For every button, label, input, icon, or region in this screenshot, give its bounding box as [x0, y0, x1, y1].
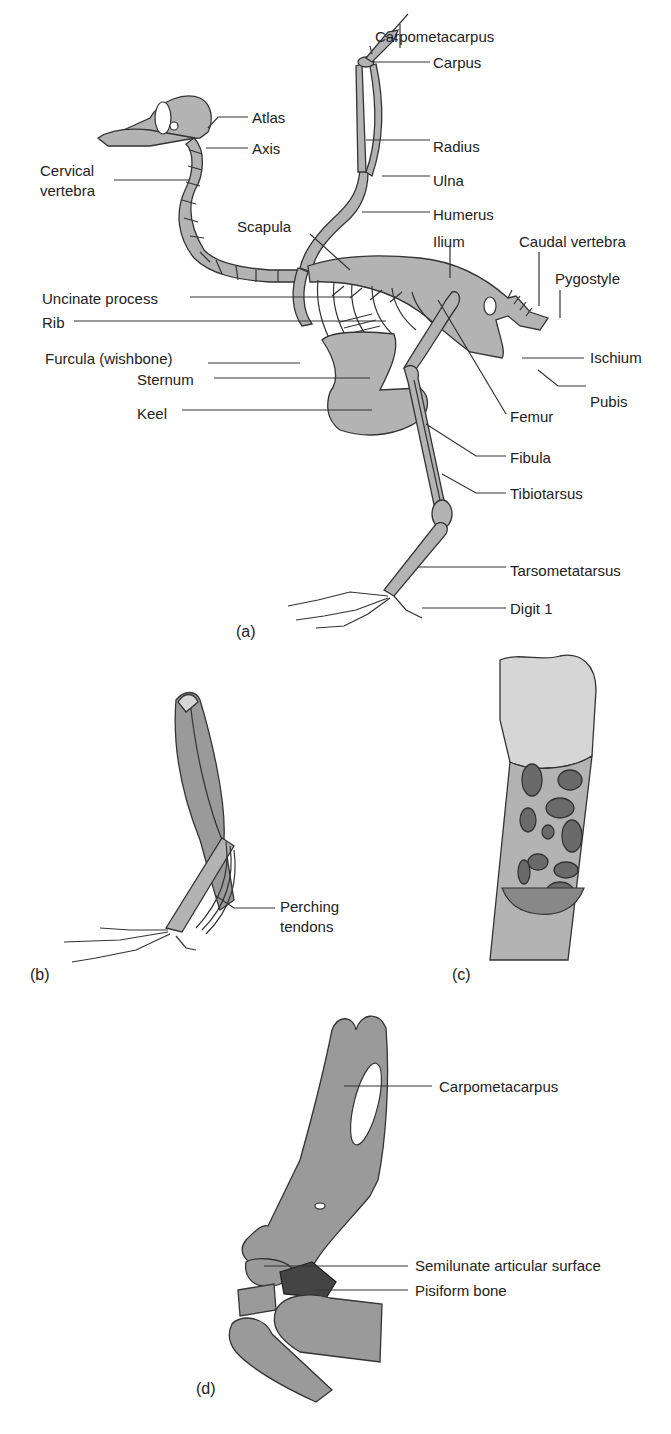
- label-axis: Axis: [252, 140, 280, 157]
- label-humerus: Humerus: [433, 206, 494, 223]
- label-tibiotarsus: Tibiotarsus: [510, 485, 583, 502]
- label-perching-tendons-line2: tendons: [280, 918, 333, 935]
- label-pubis: Pubis: [590, 393, 628, 410]
- label-cervical-vertebra-line2: vertebra: [40, 182, 95, 199]
- label-tarsometatarsus: Tarsometatarsus: [510, 562, 621, 579]
- label-ulna: Ulna: [433, 172, 464, 189]
- bird-anatomy-illustration: [0, 0, 671, 1434]
- label-pisiform-bone: Pisiform bone: [415, 1282, 507, 1299]
- label-caudal-vertebra: Caudal vertebra: [519, 233, 626, 250]
- leg-tendon-drawing: [64, 693, 275, 963]
- label-carpometacarpus: Carpometacarpus: [375, 28, 494, 45]
- wrist-drawing: [229, 1016, 432, 1402]
- label-carpus: Carpus: [433, 54, 481, 71]
- label-sternum: Sternum: [137, 371, 194, 388]
- label-pygostyle: Pygostyle: [555, 270, 620, 287]
- label-radius: Radius: [433, 138, 480, 155]
- label-keel: Keel: [137, 405, 167, 422]
- label-perching-tendons-line1: Perching: [280, 898, 339, 915]
- label-semilunate-articular-surface: Semilunate articular surface: [415, 1257, 601, 1274]
- label-atlas: Atlas: [252, 109, 285, 126]
- panel-label-b: (b): [30, 966, 50, 984]
- label-cervical-vertebra-line1: Cervical: [40, 162, 94, 179]
- panel-label-a: (a): [236, 623, 256, 641]
- label-digit-1: Digit 1: [510, 600, 553, 617]
- hollow-bone-drawing: [490, 655, 596, 960]
- label-furcula: Furcula (wishbone): [45, 350, 173, 367]
- label-ischium: Ischium: [590, 349, 642, 366]
- label-rib: Rib: [42, 314, 65, 331]
- panel-label-c: (c): [452, 966, 471, 984]
- label-ilium: Ilium: [433, 233, 465, 250]
- label-uncinate-process: Uncinate process: [42, 290, 158, 307]
- label-d-carpometacarpus: Carpometacarpus: [439, 1078, 558, 1095]
- label-scapula: Scapula: [237, 218, 291, 235]
- panel-label-d: (d): [196, 1380, 216, 1398]
- label-femur: Femur: [510, 408, 553, 425]
- label-fibula: Fibula: [510, 449, 551, 466]
